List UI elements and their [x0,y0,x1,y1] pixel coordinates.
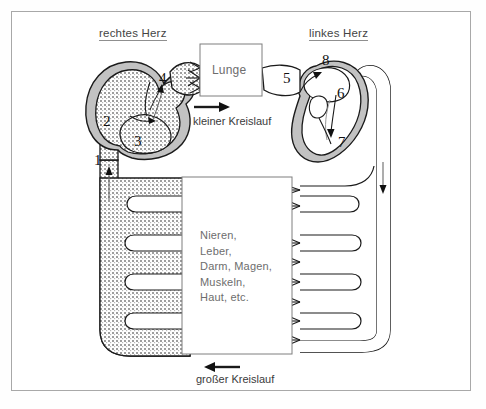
marker-4: 4 [159,70,167,87]
marker-7: 7 [338,134,346,151]
marker-1: 1 [94,152,102,169]
lung-label: Lunge [212,63,246,77]
organ-line: Nieren, [200,228,272,244]
diagram-page: rechtes Herz linkes Herz Lunge Nieren, L… [0,0,486,409]
systemic-circuit-label: großer Kreislauf [196,373,274,385]
systemic-circuit-arrow [204,362,240,372]
organ-line: Haut, etc. [200,290,272,306]
organ-line: Darm, Magen, [200,259,272,275]
marker-3: 3 [134,133,142,150]
marker-2: 2 [103,113,111,130]
right-heart-title: rechtes Herz [99,27,167,41]
pulmonary-circuit-label: kleiner Kreislauf [193,115,271,127]
left-heart [246,61,368,162]
circulation-diagram [0,0,486,409]
organ-line: Leber, [200,244,272,260]
right-heart [86,62,200,160]
left-heart-title: linkes Herz [309,27,368,41]
marker-8: 8 [322,52,330,69]
organ-line: Muskeln, [200,275,272,291]
marker-6: 6 [337,85,345,102]
pulmonary-circuit-arrow [194,102,230,112]
marker-5: 5 [283,70,291,87]
organ-list: Nieren, Leber, Darm, Magen, Muskeln, Hau… [200,228,272,306]
